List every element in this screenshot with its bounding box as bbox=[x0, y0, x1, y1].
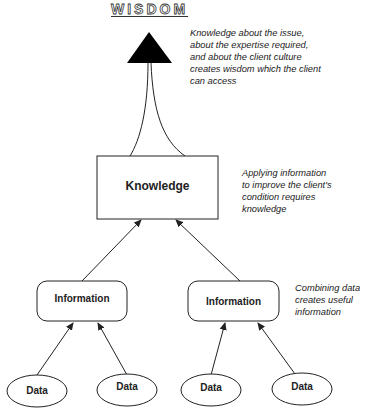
information-note: Combining data creates useful informatio… bbox=[295, 282, 360, 318]
arrow-data1-to-info-left bbox=[37, 323, 73, 375]
knowledge-to-wisdom-curve-left bbox=[130, 63, 148, 156]
data-label-2: Data bbox=[97, 381, 157, 392]
knowledge-label: Knowledge bbox=[97, 179, 218, 193]
wisdom-note-line: Knowledge about the issue, bbox=[190, 27, 321, 39]
wisdom-note-line: can access bbox=[190, 75, 321, 87]
wisdom-note-line: about the expertise required, bbox=[190, 39, 321, 51]
information-note-line: Combining data bbox=[295, 282, 360, 294]
knowledge-note-line: Applying information bbox=[242, 167, 332, 179]
data-label-4: Data bbox=[272, 381, 332, 392]
knowledge-note-line: knowledge bbox=[242, 203, 332, 215]
arrow-info-right-to-knowledge bbox=[176, 220, 240, 281]
knowledge-note-line: condition requires bbox=[242, 191, 332, 203]
arrow-data3-to-info-right bbox=[211, 323, 225, 375]
wisdom-note: Knowledge about the issue, about the exp… bbox=[190, 27, 321, 87]
arrow-info-left-to-knowledge bbox=[82, 220, 141, 281]
information-note-line: creates useful bbox=[295, 294, 360, 306]
information-right-label: Information bbox=[188, 296, 279, 307]
data-label-1: Data bbox=[7, 385, 67, 396]
data-label-3: Data bbox=[181, 382, 241, 393]
arrow-data2-to-info-left bbox=[98, 323, 127, 375]
arrow-data4-to-info-right bbox=[258, 323, 295, 374]
knowledge-note: Applying information to improve the clie… bbox=[242, 167, 332, 215]
knowledge-note-line: to improve the client's bbox=[242, 179, 332, 191]
wisdom-note-line: creates wisdom which the client bbox=[190, 63, 321, 75]
information-note-line: information bbox=[295, 306, 360, 318]
wisdom-triangle-icon bbox=[127, 32, 172, 63]
knowledge-to-wisdom-curve-right bbox=[151, 63, 185, 156]
information-left-label: Information bbox=[37, 293, 127, 304]
wisdom-note-line: and about the client culture bbox=[190, 51, 321, 63]
